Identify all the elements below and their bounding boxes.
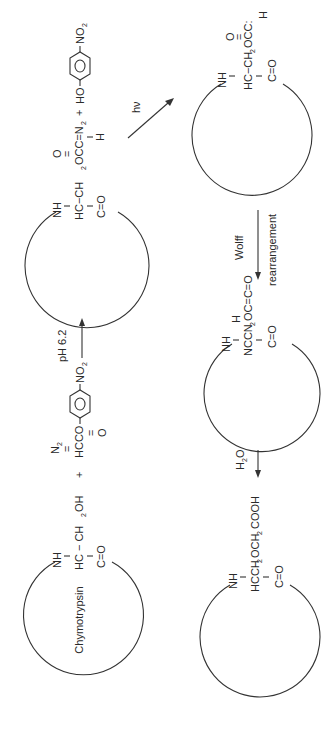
arrow-hydrolysis: H 2 O <box>234 449 261 478</box>
arrow-label-hv: hν <box>130 101 142 113</box>
subscript: 2 <box>81 23 88 27</box>
subscript: 2 <box>256 531 263 535</box>
subscript: 2 <box>249 49 256 53</box>
residue-label-5: HCCH <box>249 560 261 592</box>
carbene-ring-group: NH O = HC−CH 2 OCC: H C=O <box>192 11 312 195</box>
enzyme-label: Chymotrypsin <box>73 586 85 653</box>
residue-label-4: NCCN <box>242 324 254 356</box>
arrow-label-ph: pH 6.2 <box>56 330 68 362</box>
plus-sign-2: + <box>73 110 85 116</box>
h-label: H <box>230 315 242 323</box>
arrow-photolysis: hν <box>128 98 174 138</box>
subscript: 2 <box>256 559 263 563</box>
h-label: H <box>94 133 106 141</box>
benzene-ring-icon <box>70 390 90 418</box>
nitro-label: NO <box>74 27 86 44</box>
double-bond: = <box>61 446 73 452</box>
intermediate-ring-group: NH O = HC−CH 2 OCC=N 2 H C=O <box>25 121 149 328</box>
nh-label-3: NH <box>216 72 228 88</box>
reagent-main: HCCO <box>73 425 85 458</box>
product-mid: OCH <box>249 534 261 559</box>
carbonyl-label-1: C=O <box>95 545 107 568</box>
enzyme-ring-2 <box>25 212 149 328</box>
residue-label-2: HC−CH <box>73 182 85 220</box>
nitro-label: NO <box>74 366 86 383</box>
carbonyl-label-5: C=O <box>273 565 285 588</box>
oh-label: OH <box>73 495 85 512</box>
aromatic-circle <box>75 60 85 72</box>
ester-label: OCC=N <box>73 126 85 165</box>
product-tail: COOH <box>249 496 261 529</box>
product-ring-group: NH HCCH 2 OCH 2 COOH C=O <box>200 496 320 697</box>
reaction-scheme: Chymotrypsin NH HC − CH 2 OH C=O + N 2 =… <box>0 0 334 738</box>
carbonyl-label-4: C=O <box>266 325 278 348</box>
h-label: H <box>257 11 269 19</box>
plus-sign-1: + <box>73 472 85 478</box>
aromatic-circle <box>75 398 85 410</box>
ho-label: HO <box>74 87 86 104</box>
double-bond: = <box>61 151 73 157</box>
ketene-ring-group: NH H NCCN 2 OC=C=O C=O <box>204 275 320 452</box>
enzyme-ring-3 <box>192 84 312 195</box>
nh-label-5: NH <box>227 573 239 589</box>
arrow-ph: pH 6.2 <box>56 318 85 362</box>
subscript: 2 <box>80 166 87 170</box>
n2-label: N <box>49 446 61 454</box>
nh-label-4: NH <box>220 336 232 352</box>
ketene-label: OC=C=O <box>242 275 254 321</box>
carbonyl-label-3: C=O <box>266 59 278 82</box>
oxygen-label: O <box>96 428 108 437</box>
subscript: 2 <box>80 513 87 517</box>
nitrophenol-group: HO NO 2 <box>70 23 90 104</box>
nh-label-2: NH <box>51 202 63 218</box>
enzyme-ring-4 <box>204 344 320 452</box>
enzyme-ring-5 <box>200 585 320 697</box>
benzene-ring-icon <box>70 52 90 80</box>
arrow-label-rearrangement: rearrangement <box>266 214 278 286</box>
arrow-label-o: O <box>234 449 246 458</box>
subscript: 2 <box>81 362 88 366</box>
arrow-wolff: Wolff rearrangement <box>233 210 278 286</box>
residue-label-3: HC−CH <box>242 52 254 90</box>
carbonyl-label-2: C=O <box>95 195 107 218</box>
subscript: 2 <box>80 121 87 125</box>
subscript: 2 <box>249 322 256 326</box>
carbene-label: OCC: <box>242 21 254 49</box>
subscript: 2 <box>56 442 63 446</box>
arrow-label-wolff: Wolff <box>233 234 245 260</box>
residue-label-1: HC − CH <box>73 526 85 570</box>
nh-label-1: NH <box>51 552 63 568</box>
chymotrypsin-ring-group: Chymotrypsin NH HC − CH 2 OH C=O <box>24 495 144 674</box>
arrow-label-h: H <box>234 462 246 470</box>
reagent-group: N 2 = HCCO = O NO 2 <box>49 362 108 458</box>
